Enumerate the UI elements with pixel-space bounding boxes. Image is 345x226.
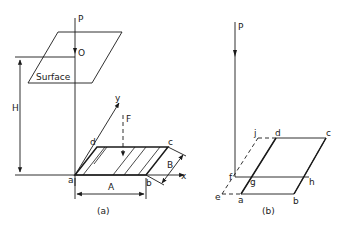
panel-a: Surface P O H x y F a b — [12, 14, 187, 216]
label-d: d — [90, 137, 96, 147]
label-f: F — [126, 114, 131, 124]
label-e-b: e — [215, 192, 221, 202]
label-a-b: a — [238, 195, 244, 205]
label-c-b: c — [326, 128, 331, 138]
label-dim-a: A — [108, 182, 115, 192]
surface-label: Surface — [36, 72, 71, 82]
label-dim-b: B — [167, 160, 173, 170]
label-a: a — [68, 175, 74, 185]
label-j-b: j — [253, 128, 257, 138]
label-f-b: f — [229, 172, 233, 182]
label-b: b — [146, 178, 152, 188]
dimension-b-ext-top — [168, 147, 186, 156]
arrow-head-p-icon — [233, 50, 237, 57]
y-axis — [75, 103, 119, 175]
label-h: H — [12, 103, 19, 113]
edge-ad — [241, 138, 276, 194]
label-d-b: d — [275, 128, 281, 138]
arrow-head-o-icon — [73, 48, 77, 54]
panel-b: P a b c d e f g h j (b) — [215, 22, 331, 216]
caption-a: (a) — [97, 206, 110, 216]
label-p-b: P — [238, 22, 244, 32]
caption-b: (b) — [262, 206, 275, 216]
loaded-area — [75, 147, 168, 175]
figure-canvas: Surface P O H x y F a b — [0, 0, 345, 226]
label-o: O — [78, 48, 85, 58]
label-x: x — [181, 171, 187, 181]
label-h-b: h — [309, 177, 315, 187]
label-g-b: g — [250, 177, 256, 187]
label-p: P — [78, 14, 84, 24]
label-b-b: b — [293, 196, 299, 206]
label-y: y — [115, 93, 121, 103]
label-c: c — [168, 137, 173, 147]
